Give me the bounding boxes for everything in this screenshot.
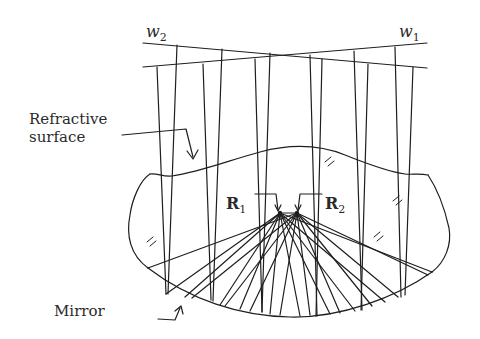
w2-base: w bbox=[146, 22, 160, 41]
focus-r2-label: R2 bbox=[325, 196, 345, 215]
reflected-ray bbox=[220, 213, 280, 305]
refractive-surface-label: Refractive surface bbox=[29, 110, 107, 146]
focus-r2-dot bbox=[295, 211, 298, 214]
r2-base: R bbox=[325, 194, 338, 213]
focus-r1-label: R1 bbox=[226, 196, 246, 215]
lens-right-edge bbox=[428, 175, 450, 272]
ray bbox=[168, 45, 177, 294]
reflected-ray bbox=[185, 213, 280, 297]
r2-subscript: 2 bbox=[338, 203, 345, 216]
refractive-surface-label-line1: Refractive bbox=[29, 110, 107, 128]
refraction-mirror-diagram bbox=[0, 0, 480, 339]
wavefront-w2-label: w2 bbox=[146, 24, 167, 43]
w2-subscript: 2 bbox=[160, 31, 167, 44]
w1-subscript: 1 bbox=[413, 31, 420, 44]
r1-base: R bbox=[226, 194, 239, 213]
mirror-label: Mirror bbox=[54, 304, 105, 319]
reflected-ray bbox=[280, 213, 330, 314]
ray bbox=[255, 59, 262, 312]
ray bbox=[316, 59, 322, 316]
refractive-surface-label-line2: surface bbox=[29, 128, 107, 146]
wavefront-w1-label: w1 bbox=[399, 24, 420, 43]
ray bbox=[405, 67, 413, 295]
w1-base: w bbox=[399, 22, 413, 41]
ray bbox=[354, 51, 362, 310]
r1-subscript: 1 bbox=[239, 203, 246, 216]
reflected-ray bbox=[192, 213, 297, 298]
ray bbox=[157, 67, 166, 294]
ray bbox=[213, 49, 222, 301]
lens-left-edge bbox=[129, 174, 150, 268]
refractive-surface-leader bbox=[122, 129, 193, 157]
focus-r1-dot bbox=[278, 211, 281, 214]
ray bbox=[361, 64, 368, 310]
